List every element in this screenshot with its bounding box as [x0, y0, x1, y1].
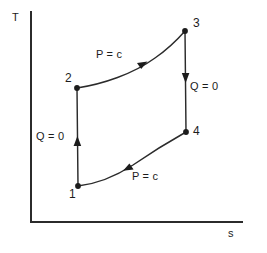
- state-point-3-dot: [182, 28, 188, 34]
- ts-diagram-canvas: [0, 0, 267, 253]
- state-label-2: 2: [65, 73, 72, 84]
- annotation-heat-rejection: P = c: [132, 171, 158, 182]
- arrow-1-2-up: [74, 136, 82, 146]
- y-axis-label: T: [12, 12, 19, 23]
- arrow-3-4-down: [182, 73, 190, 83]
- process-curve-2-3: [77, 31, 185, 88]
- annotation-expansion: Q = 0: [190, 81, 218, 92]
- annotation-heat-addition: P = c: [96, 49, 122, 60]
- annotation-compression: Q = 0: [36, 131, 64, 142]
- state-label-4: 4: [193, 126, 200, 137]
- state-point-2-dot: [74, 85, 80, 91]
- state-point-4-dot: [183, 129, 189, 135]
- x-axis-label: s: [228, 228, 234, 239]
- state-label-1: 1: [69, 189, 76, 200]
- state-label-3: 3: [193, 18, 200, 29]
- ts-diagram-figure: T s 1 2 3 4 Q = 0 P = c Q = 0 P = c: [0, 0, 267, 253]
